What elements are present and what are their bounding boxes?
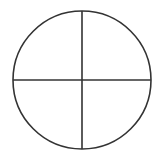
quadrant-circle-diagram — [0, 0, 163, 153]
